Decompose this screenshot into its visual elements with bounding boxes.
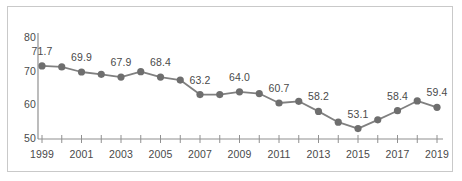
x-axis-tick-label: 2005 [144, 148, 178, 160]
data-point-value-label: 68.4 [146, 56, 176, 68]
data-point-marker[interactable] [157, 73, 164, 80]
chart-screenshot: 50607080 1999200120032005200720092011201… [0, 0, 462, 181]
data-point-marker[interactable] [295, 98, 302, 105]
data-point-marker[interactable] [374, 116, 381, 123]
y-axis-tick-label: 60 [14, 98, 36, 110]
y-axis-tick-label: 80 [14, 31, 36, 43]
x-tick-marks [42, 135, 437, 143]
y-axis-tick-label: 70 [14, 65, 36, 77]
x-axis-tick-label: 1999 [25, 148, 59, 160]
data-point-value-label: 58.4 [383, 90, 413, 102]
data-point-value-label: 69.9 [67, 51, 97, 63]
data-point-value-label: 60.7 [264, 82, 294, 94]
data-point-marker[interactable] [315, 108, 322, 115]
data-point-marker[interactable] [335, 119, 342, 126]
data-point-marker[interactable] [177, 76, 184, 83]
x-axis-tick-label: 2007 [183, 148, 217, 160]
data-point-marker[interactable] [38, 62, 45, 69]
data-point-marker[interactable] [137, 68, 144, 75]
data-point-value-label: 53.1 [343, 108, 373, 120]
data-point-marker[interactable] [98, 71, 105, 78]
data-point-marker[interactable] [394, 107, 401, 114]
data-point-marker[interactable] [216, 91, 223, 98]
data-point-marker[interactable] [414, 97, 421, 104]
data-point-value-label: 58.2 [304, 90, 334, 102]
x-axis-tick-label: 2009 [223, 148, 257, 160]
data-point-value-label: 67.9 [106, 56, 136, 68]
data-point-marker[interactable] [433, 104, 440, 111]
x-axis-tick-label: 2011 [262, 148, 296, 160]
data-point-value-label: 63.2 [185, 74, 215, 86]
x-axis-tick-label: 2017 [381, 148, 415, 160]
data-point-marker[interactable] [117, 73, 124, 80]
data-point-marker[interactable] [58, 63, 65, 70]
data-point-marker[interactable] [354, 125, 361, 132]
data-point-marker[interactable] [196, 91, 203, 98]
y-axis-tick-label: 50 [14, 132, 36, 144]
x-axis-tick-label: 2013 [302, 148, 336, 160]
x-axis-tick-label: 2001 [65, 148, 99, 160]
data-point-marker[interactable] [256, 90, 263, 97]
data-point-value-label: 64.0 [225, 71, 255, 83]
data-point-value-label: 59.4 [422, 86, 452, 98]
data-point-value-label: 71.7 [27, 45, 57, 57]
line-chart: 50607080 1999200120032005200720092011201… [0, 0, 462, 181]
data-point-marker[interactable] [275, 99, 282, 106]
x-axis-tick-label: 2015 [341, 148, 375, 160]
x-axis-tick-label: 2019 [420, 148, 454, 160]
x-axis-tick-label: 2003 [104, 148, 138, 160]
data-point-marker[interactable] [236, 88, 243, 95]
axes-group [38, 33, 443, 139]
data-point-marker[interactable] [78, 68, 85, 75]
